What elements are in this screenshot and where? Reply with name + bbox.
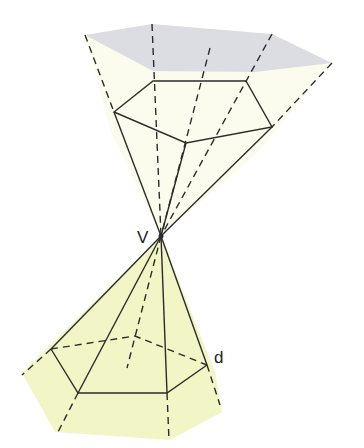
lower-cone-region: [22, 236, 222, 440]
edge-label: d: [214, 348, 223, 368]
diagram-canvas: [0, 0, 364, 448]
vertex-label: V: [137, 228, 148, 248]
vertex-point: [159, 234, 164, 239]
